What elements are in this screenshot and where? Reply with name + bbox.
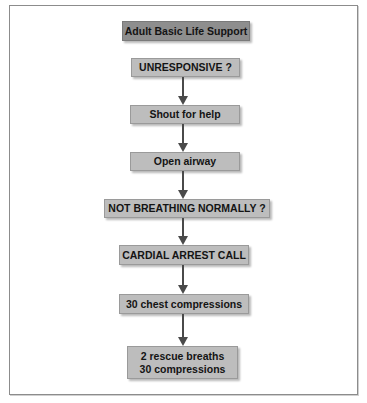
step-rescue-breaths-compressions: 2 rescue breaths 30 compressions	[127, 346, 238, 379]
step-label: CARDIAL ARREST CALL	[122, 249, 246, 262]
step-label-line-2: 30 compressions	[140, 363, 226, 376]
step-cardial-arrest-call: CARDIAL ARREST CALL	[119, 245, 249, 265]
step-open-airway: Open airway	[130, 152, 240, 171]
step-30-chest-compressions: 30 chest compressions	[119, 294, 249, 314]
step-label: 30 chest compressions	[126, 298, 242, 311]
title-text: Adult Basic Life Support	[125, 25, 248, 38]
step-label-line-1: 2 rescue breaths	[141, 350, 224, 363]
step-label: Open airway	[154, 155, 216, 168]
step-label: Shout for help	[149, 108, 220, 121]
step-label: NOT BREATHING NORMALLY ?	[108, 202, 265, 215]
step-unresponsive: UNRESPONSIVE ?	[131, 58, 240, 77]
title-box: Adult Basic Life Support	[122, 21, 250, 41]
step-not-breathing-normally: NOT BREATHING NORMALLY ?	[104, 199, 270, 218]
step-label: UNRESPONSIVE ?	[139, 61, 232, 74]
step-shout-for-help: Shout for help	[130, 105, 240, 124]
